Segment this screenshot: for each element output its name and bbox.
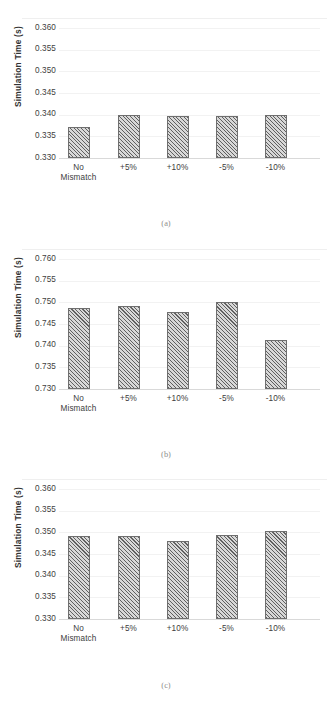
bar	[68, 536, 90, 619]
x-tick-label: -5%	[199, 163, 255, 173]
y-tick-label: 0.760	[35, 255, 56, 263]
x-tick-label: -10%	[248, 163, 304, 173]
y-tick-label: 0.335	[35, 132, 56, 140]
axis-baseline	[59, 619, 320, 620]
y-tick-label: 0.340	[35, 110, 56, 118]
y-tick-label: 0.360	[35, 24, 56, 32]
chart-figure-c: Simulation Time (s) 0.3600.3550.3500.345…	[0, 461, 332, 694]
gridline	[59, 28, 320, 29]
x-tick-label: NoMismatch	[51, 163, 107, 183]
x-tick-label: +10%	[150, 624, 206, 634]
bar	[265, 340, 287, 389]
x-tick-label: +10%	[150, 163, 206, 173]
gridline	[59, 93, 320, 94]
y-tick-label: 0.330	[35, 615, 56, 623]
y-axis-tick-labels: 0.3600.3550.3500.3450.3400.3350.330	[0, 0, 56, 196]
y-tick-label: 0.755	[35, 276, 56, 284]
y-tick-label: 0.360	[35, 485, 56, 493]
bar	[265, 115, 287, 158]
plot-panel-b: Simulation Time (s) 0.7600.7550.7500.745…	[0, 231, 332, 427]
gridline	[59, 50, 320, 51]
gridline	[59, 324, 320, 325]
bar	[118, 536, 140, 619]
chart-figure-b: Simulation Time (s) 0.7600.7550.7500.745…	[0, 231, 332, 464]
gridline	[59, 511, 320, 512]
y-tick-label: 0.355	[35, 45, 56, 53]
y-tick-label: 0.355	[35, 506, 56, 514]
gridline	[59, 259, 320, 260]
gridline	[59, 302, 320, 303]
bar	[167, 116, 189, 158]
panel-top-border	[22, 479, 327, 480]
bar	[265, 531, 287, 619]
y-tick-label: 0.730	[35, 385, 56, 393]
bar	[216, 302, 238, 389]
plot-panel-c: Simulation Time (s) 0.3600.3550.3500.345…	[0, 461, 332, 657]
x-tick-label: +5%	[101, 163, 157, 173]
bar	[216, 535, 238, 619]
subfigure-caption: (c)	[0, 681, 332, 690]
bar	[68, 127, 90, 158]
x-tick-label: -10%	[248, 394, 304, 404]
y-tick-label: 0.340	[35, 571, 56, 579]
panel-top-border	[22, 249, 327, 250]
subfigure-caption: (a)	[0, 219, 332, 228]
bar	[216, 116, 238, 158]
plot-panel-a: Simulation Time (s) 0.3600.3550.3500.345…	[0, 0, 332, 196]
gridline	[59, 489, 320, 490]
x-tick-label: -10%	[248, 624, 304, 634]
y-tick-label: 0.750	[35, 298, 56, 306]
x-tick-label: -5%	[199, 624, 255, 634]
bar	[167, 541, 189, 619]
x-tick-label: +5%	[101, 394, 157, 404]
y-axis-tick-labels: 0.7600.7550.7500.7450.7400.7350.730	[0, 231, 56, 427]
y-tick-label: 0.350	[35, 528, 56, 536]
x-tick-label: +5%	[101, 624, 157, 634]
axis-baseline	[59, 389, 320, 390]
x-tick-label: -5%	[199, 394, 255, 404]
y-tick-label: 0.735	[35, 363, 56, 371]
x-tick-label: NoMismatch	[51, 394, 107, 414]
x-tick-label: NoMismatch	[51, 624, 107, 644]
bar	[118, 115, 140, 158]
y-tick-label: 0.350	[35, 67, 56, 75]
y-tick-label: 0.740	[35, 341, 56, 349]
panel-top-border	[22, 18, 327, 19]
x-tick-label: +10%	[150, 394, 206, 404]
subfigure-caption: (b)	[0, 450, 332, 459]
gridline	[59, 71, 320, 72]
y-tick-label: 0.345	[35, 89, 56, 97]
bar	[167, 312, 189, 389]
axis-baseline	[59, 158, 320, 159]
gridline	[59, 281, 320, 282]
y-tick-label: 0.330	[35, 154, 56, 162]
bar	[68, 308, 90, 389]
y-axis-tick-labels: 0.3600.3550.3500.3450.3400.3350.330	[0, 461, 56, 657]
y-tick-label: 0.335	[35, 593, 56, 601]
y-tick-label: 0.345	[35, 550, 56, 558]
y-tick-label: 0.745	[35, 320, 56, 328]
bar	[118, 306, 140, 389]
chart-figure-a: Simulation Time (s) 0.3600.3550.3500.345…	[0, 0, 332, 233]
